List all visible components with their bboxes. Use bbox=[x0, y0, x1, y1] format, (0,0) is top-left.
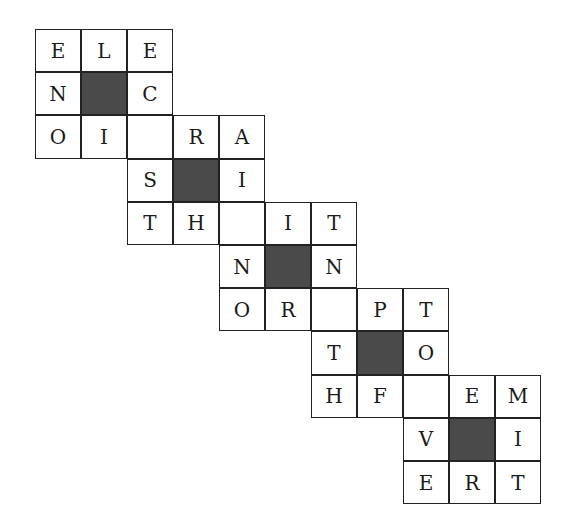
cell-letter: T bbox=[327, 211, 340, 235]
cell-letter: A bbox=[235, 125, 249, 149]
cell-letter: M bbox=[508, 384, 528, 408]
letter-cell[interactable]: N bbox=[219, 245, 265, 288]
letter-cell[interactable]: O bbox=[403, 331, 449, 374]
letter-cell[interactable]: S bbox=[127, 159, 173, 202]
cell-letter: E bbox=[419, 471, 434, 495]
letter-cell[interactable]: L bbox=[81, 29, 127, 72]
cell-letter: P bbox=[373, 298, 386, 322]
cell-letter: C bbox=[142, 82, 157, 106]
letter-cell[interactable]: H bbox=[173, 202, 219, 245]
cell-letter: L bbox=[97, 39, 110, 63]
letter-cell[interactable]: N bbox=[311, 245, 357, 288]
letter-cell[interactable]: E bbox=[35, 29, 81, 72]
letter-cell[interactable]: H bbox=[311, 375, 357, 418]
letter-cell[interactable]: R bbox=[265, 288, 311, 331]
letter-cell[interactable]: O bbox=[219, 288, 265, 331]
cell-letter: E bbox=[143, 39, 158, 63]
letter-cell[interactable]: N bbox=[35, 72, 81, 115]
letter-cell[interactable]: I bbox=[495, 418, 541, 461]
cell-letter: O bbox=[50, 125, 66, 149]
cell-letter: N bbox=[49, 82, 67, 106]
cell-letter: O bbox=[418, 341, 434, 365]
cell-letter: T bbox=[511, 471, 524, 495]
letter-cell[interactable]: T bbox=[311, 331, 357, 374]
cell-letter: S bbox=[143, 168, 157, 192]
cell-letter: R bbox=[280, 298, 295, 322]
cell-letter: I bbox=[284, 211, 292, 235]
letter-cell[interactable]: A bbox=[219, 115, 265, 158]
cell-letter: T bbox=[143, 211, 156, 235]
shaded-cell bbox=[173, 159, 219, 202]
cell-letter: H bbox=[187, 211, 204, 235]
letter-cell[interactable]: O bbox=[35, 115, 81, 158]
letter-cell[interactable]: R bbox=[173, 115, 219, 158]
cell-letter: F bbox=[373, 384, 387, 408]
cell-letter: T bbox=[419, 298, 432, 322]
cell-letter: E bbox=[465, 384, 480, 408]
shaded-cell bbox=[265, 245, 311, 288]
letter-cell[interactable]: I bbox=[219, 159, 265, 202]
letter-cell[interactable]: T bbox=[495, 461, 541, 504]
cell-letter: N bbox=[233, 255, 251, 279]
letter-cell[interactable]: T bbox=[403, 288, 449, 331]
cell-letter: V bbox=[419, 427, 433, 451]
letter-cell[interactable]: C bbox=[127, 72, 173, 115]
empty-cell[interactable] bbox=[127, 115, 173, 158]
letter-cell[interactable]: M bbox=[495, 375, 541, 418]
cell-letter: R bbox=[464, 471, 479, 495]
empty-cell[interactable] bbox=[219, 202, 265, 245]
empty-cell[interactable] bbox=[311, 288, 357, 331]
cell-letter: I bbox=[100, 125, 108, 149]
letter-cell[interactable]: E bbox=[403, 461, 449, 504]
cell-letter: I bbox=[238, 168, 246, 192]
letter-cell[interactable]: E bbox=[449, 375, 495, 418]
letter-cell[interactable]: F bbox=[357, 375, 403, 418]
letter-cell[interactable]: R bbox=[449, 461, 495, 504]
letter-cell[interactable]: I bbox=[81, 115, 127, 158]
cell-letter: T bbox=[327, 341, 340, 365]
cell-letter: H bbox=[325, 384, 342, 408]
letter-cell[interactable]: E bbox=[127, 29, 173, 72]
shaded-cell bbox=[449, 418, 495, 461]
letter-cell[interactable]: P bbox=[357, 288, 403, 331]
cell-letter: O bbox=[234, 298, 250, 322]
empty-cell[interactable] bbox=[403, 375, 449, 418]
letter-cell[interactable]: I bbox=[265, 202, 311, 245]
letter-cell[interactable]: T bbox=[127, 202, 173, 245]
cell-letter: R bbox=[188, 125, 203, 149]
letter-cell[interactable]: V bbox=[403, 418, 449, 461]
shaded-cell bbox=[81, 72, 127, 115]
shaded-cell bbox=[357, 331, 403, 374]
cell-letter: E bbox=[51, 39, 66, 63]
cell-letter: I bbox=[514, 427, 522, 451]
cell-letter: N bbox=[325, 255, 343, 279]
letter-cell[interactable]: T bbox=[311, 202, 357, 245]
